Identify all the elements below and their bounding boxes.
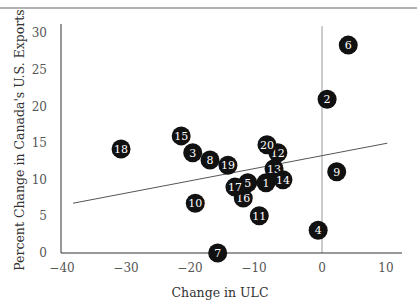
data-point-18: 18 (112, 140, 131, 159)
y-tick-label: 25 (32, 63, 47, 77)
y-axis-title: Percent Change in Canada's U.S. Exports (12, 9, 27, 271)
x-tick-label: −10 (241, 261, 266, 275)
data-point-2: 2 (318, 90, 337, 109)
y-tick-label: 0 (39, 246, 47, 260)
data-point-4: 4 (309, 221, 328, 240)
data-point-label: 8 (207, 154, 214, 167)
y-tick-label: 20 (32, 100, 47, 114)
data-point-7: 7 (208, 244, 227, 263)
axes (61, 24, 402, 253)
data-point-15: 15 (172, 126, 191, 145)
data-point-label: 7 (214, 247, 221, 260)
data-point-label: 15 (174, 130, 188, 143)
y-tick-labels: 051015202530 (32, 26, 47, 260)
x-axis-title: Change in ULC (172, 285, 269, 300)
data-point-17: 17 (225, 178, 244, 197)
y-tick-label: 5 (39, 209, 47, 223)
data-point-11: 11 (250, 206, 269, 225)
chart-canvas: 051015202530 −40−30−20−10010 12345678910… (0, 0, 417, 308)
data-point-label: 14 (276, 174, 290, 187)
data-point-label: 2 (324, 93, 331, 106)
data-point-label: 10 (188, 197, 202, 210)
data-point-label: 18 (114, 143, 128, 156)
data-point-3: 3 (183, 143, 202, 162)
data-point-label: 11 (252, 210, 266, 223)
x-tick-label: 0 (318, 261, 326, 275)
data-points: 1234567891011121314151617181920 (112, 36, 358, 263)
data-point-label: 5 (244, 177, 251, 190)
data-point-label: 9 (333, 166, 340, 179)
x-tick-label: −40 (49, 261, 74, 275)
data-point-label: 4 (315, 224, 322, 237)
data-point-10: 10 (186, 194, 205, 213)
x-tick-label: −20 (177, 261, 202, 275)
x-tick-label: −30 (113, 261, 138, 275)
data-point-6: 6 (339, 36, 358, 55)
y-tick-label: 30 (32, 26, 47, 40)
data-point-label: 1 (263, 177, 270, 190)
data-point-19: 19 (218, 156, 237, 175)
data-point-label: 3 (189, 147, 196, 160)
x-tick-label: 10 (378, 261, 393, 275)
y-tick-label: 15 (32, 136, 47, 150)
data-point-label: 6 (345, 39, 352, 52)
data-point-9: 9 (327, 162, 346, 181)
data-point-label: 20 (260, 139, 274, 152)
data-point-14: 14 (273, 170, 292, 189)
scatter-chart: 051015202530 −40−30−20−10010 12345678910… (0, 0, 417, 308)
data-point-20: 20 (257, 135, 276, 154)
x-tick-labels: −40−30−20−10010 (49, 261, 393, 275)
data-point-label: 19 (221, 159, 235, 172)
data-point-label: 17 (228, 181, 242, 194)
data-point-8: 8 (201, 151, 220, 170)
y-tick-label: 10 (32, 173, 47, 187)
